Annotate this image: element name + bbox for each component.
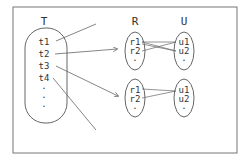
label-R: R [132, 15, 139, 28]
t3: t3 [39, 61, 50, 71]
g2-dot: . [181, 101, 186, 111]
diagram-canvas: T t1 t2 t3 t4 . . . R U r1 r2 . u1 u2 . … [0, 0, 247, 161]
line-t1 [56, 24, 96, 41]
arrow-t3 [56, 66, 118, 96]
dot: . [41, 99, 46, 109]
g1-dot: . [132, 53, 137, 63]
edge [142, 89, 176, 91]
line-t4 [53, 78, 96, 130]
arrow-t2 [55, 49, 117, 54]
label-T: T [41, 15, 48, 28]
t1: t1 [39, 37, 50, 47]
t2: t2 [39, 49, 50, 59]
label-U: U [181, 15, 188, 28]
edge [142, 91, 176, 98]
g1-dot: . [181, 53, 186, 63]
g2-dot: . [132, 101, 137, 111]
